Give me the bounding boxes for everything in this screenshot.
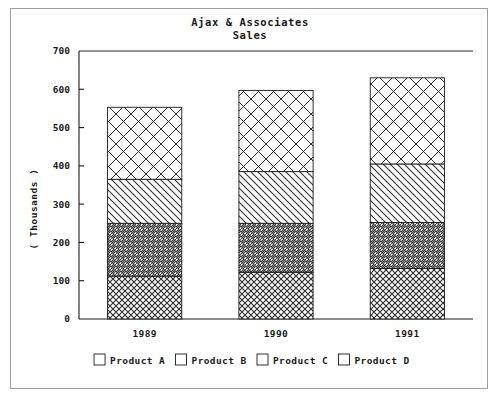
x-tick-label: 1989 — [132, 328, 156, 339]
swatch-product-d — [338, 354, 349, 365]
page-root: Ajax & Associates Sales ( Thousands ) 01… — [0, 0, 501, 412]
swatch-product-a — [94, 354, 105, 365]
x-tick-label: 1990 — [264, 328, 288, 339]
chart-legend: Product AProduct BProduct CProduct D — [94, 354, 410, 366]
y-tick-label: 0 — [64, 313, 70, 324]
bar-segment-product-b — [108, 223, 182, 276]
bar-segment-product-b — [370, 223, 444, 269]
y-axis-label: ( Thousands ) — [28, 169, 39, 250]
legend-label: Product B — [192, 355, 247, 366]
y-tick-label: 500 — [53, 122, 70, 133]
y-tick-label: 600 — [53, 84, 70, 95]
swatch-product-c — [257, 354, 268, 365]
bar-stack — [239, 90, 313, 319]
y-tick-label: 700 — [53, 45, 70, 56]
y-tick-label: 200 — [53, 237, 70, 248]
chart-subtitle: Sales — [233, 29, 268, 41]
legend-label: Product D — [354, 355, 409, 366]
legend-label: Product A — [110, 355, 165, 366]
category-label-layer: 198919901991 — [132, 328, 419, 339]
figure-frame: Ajax & Associates Sales ( Thousands ) 01… — [10, 8, 488, 389]
legend-label: Product C — [273, 355, 328, 366]
bar-segment-product-b — [239, 223, 313, 272]
swatch-product-b — [176, 354, 187, 365]
y-tick-label: 400 — [53, 160, 70, 171]
y-tick-label: 300 — [53, 199, 70, 210]
bar-segment-product-d — [370, 78, 444, 164]
bar-segment-product-c — [239, 172, 313, 224]
bar-segment-product-a — [239, 272, 313, 319]
chart-title: Ajax & Associates — [191, 16, 309, 28]
bar-stack — [370, 78, 444, 319]
figure-caption — [12, 398, 312, 410]
y-tick-label: 100 — [53, 275, 70, 286]
x-tick-label: 1991 — [395, 328, 419, 339]
bar-segment-product-a — [370, 268, 444, 319]
bars-layer — [108, 78, 445, 319]
bar-segment-product-c — [108, 179, 182, 223]
bar-segment-product-d — [239, 90, 313, 171]
stacked-bar-chart: Ajax & Associates Sales ( Thousands ) 01… — [11, 9, 489, 390]
bar-segment-product-a — [108, 276, 182, 319]
bar-segment-product-d — [108, 107, 182, 179]
bar-segment-product-c — [370, 164, 444, 223]
bar-stack — [108, 107, 182, 319]
